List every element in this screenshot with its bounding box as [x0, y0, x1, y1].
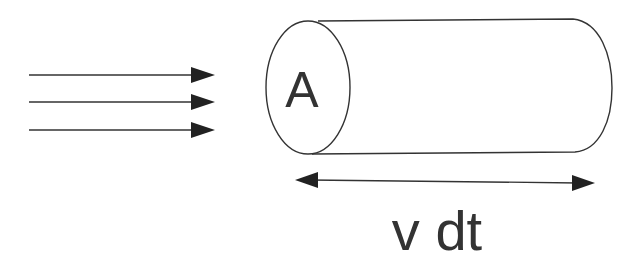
arrow-right-icon [29, 67, 215, 83]
cross-section-label: A [285, 62, 319, 118]
incoming-arrows [29, 67, 215, 138]
cylinder-body [312, 19, 612, 154]
length-arrow [295, 172, 595, 191]
length-label: v dt [392, 199, 483, 262]
flux-diagram: A v dt [0, 0, 635, 265]
arrow-right-icon [29, 122, 215, 138]
arrow-left-icon [295, 172, 318, 188]
arrow-right-icon [29, 94, 215, 110]
arrow-right-icon [572, 175, 595, 191]
